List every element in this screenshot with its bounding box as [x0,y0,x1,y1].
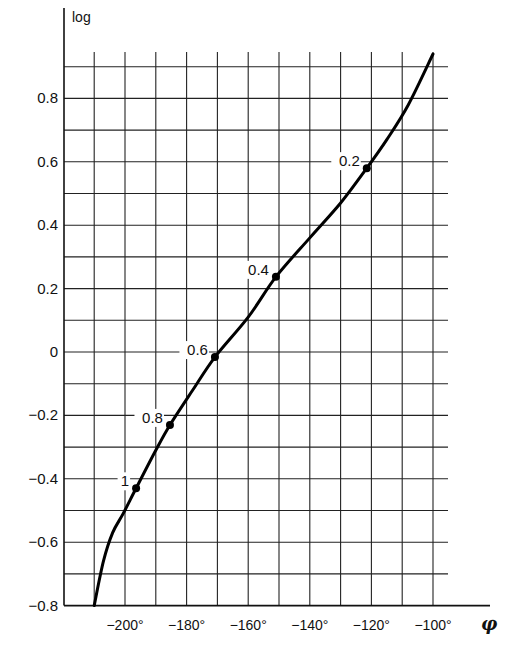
data-point-label: 1 [121,472,129,489]
x-tick-label: −160° [230,617,267,633]
y-tick-label: −0.2 [28,406,58,423]
data-point-marker [211,353,219,361]
x-tick-label: −120° [353,617,390,633]
data-point-marker [363,164,371,172]
chart: 0.80.60.40.20−0.2−0.4−0.6−0.8 −200°−180°… [0,0,512,656]
data-point-label: 0.2 [339,152,360,169]
data-point-marker [272,273,280,281]
y-tick-label: −0.6 [28,533,58,550]
y-tick-labels: 0.80.60.40.20−0.2−0.4−0.6−0.8 [28,89,58,613]
x-tick-labels: −200°−180°−160°−140°−120°−100° [106,617,451,633]
x-tick-label: −100° [414,617,451,633]
data-point-label: 0.8 [142,409,163,426]
y-tick-label: −0.8 [28,597,58,614]
y-tick-label: 0.6 [37,153,58,170]
x-tick-label: −180° [168,617,205,633]
y-tick-label: 0 [50,343,58,360]
y-tick-label: 0.4 [37,216,58,233]
data-curve [94,54,433,606]
x-tick-label: −140° [291,617,328,633]
data-point-label: 0.4 [248,261,269,278]
axes [64,8,490,606]
y-tick-label: 0.2 [37,280,58,297]
y-tick-label: −0.4 [28,470,58,487]
x-axis-label: φ [481,613,498,634]
y-axis-label: log [72,9,91,25]
data-point-marker [132,484,140,492]
data-point-marker [166,421,174,429]
data-point-label: 0.6 [187,341,208,358]
x-tick-label: −200° [106,617,143,633]
y-tick-label: 0.8 [37,89,58,106]
